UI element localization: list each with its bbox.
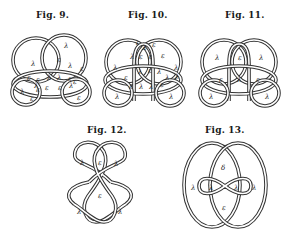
fig9-diagram: λ λ ε λ ε ε λ λ ε ε ε λ ε ε λ ε λ ε ε <box>12 35 90 105</box>
region-label: λ <box>173 64 178 72</box>
region-label: λ <box>190 184 195 192</box>
region-label: λ <box>236 76 241 84</box>
region-label: ε <box>129 83 133 91</box>
region-label: ε <box>80 65 84 73</box>
region-label: λ <box>79 159 84 167</box>
region-label: λ <box>168 93 173 101</box>
region-label: λ <box>33 82 38 90</box>
region-label: ε <box>27 74 31 82</box>
region-label: λ <box>129 53 134 61</box>
region-label: λ <box>76 208 81 216</box>
region-label: λ <box>208 93 213 101</box>
knot-figures: .s1 { fill: none; stroke: #333; stroke-w… <box>0 0 290 241</box>
region-label: ε <box>57 56 61 64</box>
region-label: λ <box>117 208 122 216</box>
region-label: ε <box>139 53 143 61</box>
region-label: λ <box>251 184 256 192</box>
region-label: ε <box>222 204 226 212</box>
region-label: λ <box>113 160 118 168</box>
region-label: ε <box>136 39 140 47</box>
region-label: λ <box>137 68 142 76</box>
region-label: λ <box>214 54 219 62</box>
region-label: ε <box>45 84 49 92</box>
region-label: ε <box>30 95 34 103</box>
region-label: λ <box>141 44 146 52</box>
region-label: ε <box>98 159 102 167</box>
fig12-diagram: λ ε λ ε λ λ <box>69 142 131 222</box>
fig13-diagram: δ λ λ λ λ ε <box>184 143 266 227</box>
region-label: ε <box>160 81 164 89</box>
region-label: ε <box>73 78 77 86</box>
region-label: ε <box>98 192 102 200</box>
region-label: λ <box>63 42 68 50</box>
fig10-diagram: ε λ ε λ ε ε ε λ λ λ ε λ ε λ ε λ λ ε λ λ … <box>104 39 184 106</box>
region-label: λ <box>208 184 213 192</box>
region-label: λ <box>174 73 179 81</box>
region-label: λ <box>114 93 119 101</box>
fig11-diagram: λ ε λ ε λ ε λ λ <box>200 40 279 106</box>
region-label: ε <box>161 52 165 60</box>
region-label: λ <box>30 60 35 68</box>
region-label: ε <box>77 94 81 102</box>
region-label: ε <box>256 76 260 84</box>
region-label: λ <box>138 83 143 91</box>
region-label: ε <box>152 41 156 49</box>
region-label: λ <box>233 184 238 192</box>
region-label: ε <box>238 54 242 62</box>
region-label: λ <box>67 62 72 70</box>
region-label: λ <box>164 74 169 82</box>
region-label: λ <box>56 74 61 82</box>
region-label: λ <box>19 88 24 96</box>
region-label: ε <box>148 67 152 75</box>
region-label: ε <box>124 74 128 82</box>
region-label: λ <box>148 83 153 91</box>
region-label: δ <box>221 164 225 172</box>
region-label: λ <box>156 68 161 76</box>
region-label: ε <box>58 84 62 92</box>
region-label: ε <box>219 76 223 84</box>
region-label: λ <box>258 54 263 62</box>
region-label: λ <box>264 93 269 101</box>
region-label: λ <box>112 64 117 72</box>
region-label: ε <box>148 53 152 61</box>
region-label: λ <box>46 74 51 82</box>
